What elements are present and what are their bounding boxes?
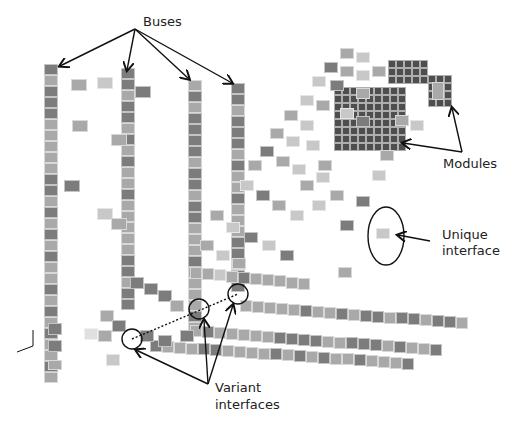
label-buses: Buses — [143, 14, 182, 30]
label-variant-interfaces-2: interfaces — [215, 397, 280, 413]
label-unique-interface-2: interface — [442, 243, 500, 259]
label-modules: Modules — [443, 156, 497, 172]
annotation-arrows — [0, 0, 512, 425]
label-variant-interfaces-1: Variant — [215, 380, 261, 396]
label-unique-interface-1: Unique — [442, 227, 488, 243]
dsm-3d-diagram: Buses Modules Unique interface Variant i… — [0, 0, 512, 425]
